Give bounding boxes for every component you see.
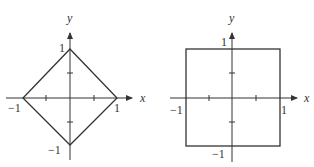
tick-label-x-pos: 1 <box>114 101 120 115</box>
tick-label-x-neg: −1 <box>8 101 21 115</box>
tick-label-x-pos: 1 <box>281 103 287 117</box>
x-axis-label: x <box>303 91 310 105</box>
tick-label-y-neg: −1 <box>48 143 61 157</box>
figure-canvas: x y −1 1 1 −1 x y −1 1 1 −1 <box>0 0 314 167</box>
diamond-plot: x y −1 1 1 −1 <box>6 11 146 160</box>
y-axis-label: y <box>66 11 73 25</box>
tick-label-y-pos: 1 <box>59 41 65 55</box>
tick-label-y-pos: 1 <box>221 35 227 49</box>
y-axis-label: y <box>228 11 235 25</box>
x-axis-label: x <box>139 91 146 105</box>
tick-label-x-neg: −1 <box>170 103 183 117</box>
square-plot: x y −1 1 1 −1 <box>170 11 310 162</box>
tick-label-y-neg: −1 <box>212 147 225 161</box>
